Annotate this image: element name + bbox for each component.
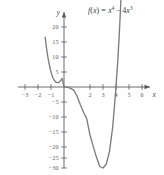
x-tick-label: 5: [127, 91, 130, 98]
x-tick-label: −3: [22, 91, 29, 98]
y-tick-label: −30: [49, 164, 59, 171]
y-tick-label: −15: [49, 128, 59, 135]
y-tick-label: 10: [52, 53, 58, 60]
x-tick-label: 6: [140, 91, 143, 98]
chart-title: f(x)=x4−4x3: [88, 5, 133, 15]
x-tick-label: −1: [48, 91, 55, 98]
x-tick-label: −2: [35, 91, 42, 98]
title-term2-exp: 3: [130, 5, 133, 11]
y-tick-label: −20: [49, 143, 59, 150]
title-close: ): [96, 6, 99, 15]
y-tick-label: −5: [52, 98, 59, 105]
y-tick-label: −25: [49, 154, 59, 161]
y-tick-label: 5: [55, 68, 58, 75]
chart-svg: f(x)=x4−4x3 −3 −2 −1 2 3 4 5: [0, 0, 164, 175]
x-tick-labels: −3 −2 −1 2 3 4 5 6: [22, 91, 144, 98]
y-tick-label: 20: [52, 23, 58, 30]
x-tick-label: 3: [101, 91, 104, 98]
x-axis-label: x: [152, 90, 157, 99]
y-axis-arrow-icon: [62, 12, 66, 18]
y-axis-label: y: [56, 8, 61, 17]
y-tick-label: 15: [52, 38, 58, 45]
y-tick-label: −10: [49, 113, 59, 120]
title-term1-exp: 4: [112, 5, 115, 11]
x-tick-label: 2: [88, 91, 91, 98]
x-axis-arrow-icon: [145, 85, 151, 89]
function-graph-figure: f(x)=x4−4x3 −3 −2 −1 2 3 4 5: [0, 0, 164, 175]
title-equals: =: [101, 6, 106, 15]
